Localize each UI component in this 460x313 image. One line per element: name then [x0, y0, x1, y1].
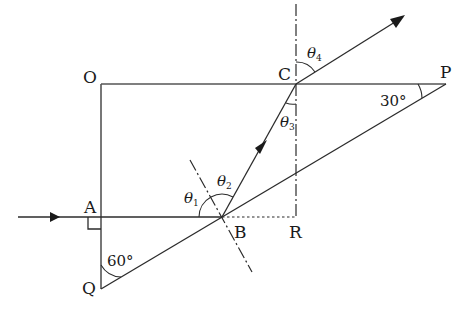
arc-angle-P [418, 84, 422, 98]
arc-theta4 [296, 62, 315, 72]
arc-theta3 [286, 103, 296, 104]
label-theta1: θ1 [184, 189, 199, 208]
emergent-arrow-icon [390, 15, 405, 28]
label-C: C [278, 64, 291, 84]
ray-BC-arrow-icon [255, 140, 267, 154]
label-theta3: θ3 [280, 113, 295, 132]
right-angle-marker-A [88, 217, 101, 229]
label-P: P [440, 62, 451, 82]
angle-label-Q: 60° [107, 252, 134, 270]
incident-arrow-icon [50, 212, 60, 222]
prism-ray-diagram: O C P A B R Q 60° 30° θ1 θ2 θ3 θ4 [0, 0, 460, 313]
label-theta2: θ2 [217, 172, 232, 191]
label-B: B [234, 222, 247, 242]
label-R: R [289, 222, 303, 242]
label-A: A [83, 197, 97, 217]
arc-theta2 [211, 194, 233, 197]
angle-label-P: 30° [380, 92, 407, 110]
line-QP-hypotenuse [101, 84, 446, 289]
arc-theta1 [199, 197, 211, 217]
label-Q: Q [82, 278, 96, 298]
label-theta4: θ4 [307, 44, 322, 63]
label-O: O [83, 67, 97, 87]
